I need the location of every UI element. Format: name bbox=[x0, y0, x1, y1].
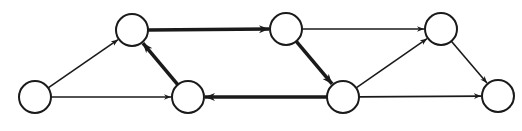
node-e bbox=[327, 81, 359, 113]
node-c bbox=[172, 81, 204, 113]
edge-f-to-g bbox=[451, 41, 487, 83]
node-f bbox=[425, 13, 457, 45]
edges-layer bbox=[48, 29, 487, 97]
edge-a-to-b bbox=[48, 40, 118, 88]
edge-c-to-b-highlighted bbox=[143, 43, 178, 85]
edge-b-to-d-highlighted bbox=[148, 29, 269, 30]
graph-canvas bbox=[0, 0, 522, 131]
edge-e-to-f bbox=[356, 39, 427, 88]
node-a bbox=[19, 81, 51, 113]
node-d bbox=[270, 13, 302, 45]
edge-e-to-g bbox=[359, 96, 481, 97]
node-b bbox=[116, 14, 148, 46]
node-g bbox=[482, 80, 514, 112]
graph-diagram bbox=[0, 0, 522, 131]
edge-d-to-e-highlighted bbox=[296, 41, 332, 84]
